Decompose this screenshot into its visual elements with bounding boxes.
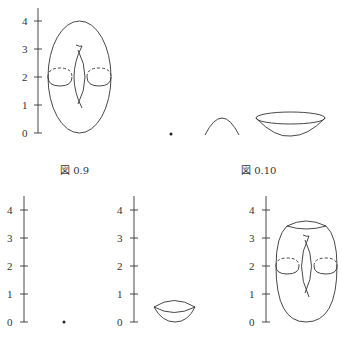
- bottom-panel-point: 4 3 2 1 0: [7, 196, 66, 328]
- tick-label-1: 1: [7, 288, 13, 300]
- fig-0-9: 4 3 2 1 0 図 0.9: [22, 8, 111, 176]
- tick-label-0: 0: [7, 316, 13, 328]
- fig-0-10: 図 0.10: [170, 112, 326, 176]
- tick-label-2: 2: [7, 260, 13, 272]
- tick-label-0: 0: [22, 127, 28, 139]
- figure-caption: 図 0.10: [241, 165, 276, 176]
- tick-label-4: 4: [22, 15, 28, 27]
- height-axis: 4 3 2 1 0: [22, 8, 42, 139]
- bowl: [256, 112, 325, 136]
- tick-label-2: 2: [249, 260, 255, 272]
- tick-label-2: 2: [22, 71, 28, 83]
- tick-label-1: 1: [22, 99, 28, 111]
- tick-label-3: 3: [7, 232, 13, 244]
- torus: [48, 21, 111, 133]
- figure-caption: 図 0.9: [60, 165, 89, 176]
- cut-torus: [276, 221, 337, 322]
- critical-point: [63, 321, 66, 324]
- tick-label-1: 1: [117, 288, 123, 300]
- height-axis: 4 3 2 1 0: [249, 196, 270, 328]
- lens: [154, 301, 195, 323]
- bottom-panel-lens: 4 3 2 1 0: [117, 196, 195, 328]
- height-axis: 4 3 2 1 0: [117, 196, 138, 328]
- tick-label-3: 3: [249, 232, 255, 244]
- figure-canvas: 4 3 2 1 0 図 0.9 図 0.10: [0, 0, 342, 353]
- tick-label-0: 0: [117, 316, 123, 328]
- tick-label-2: 2: [117, 260, 123, 272]
- arch: [205, 118, 239, 135]
- tick-label-3: 3: [117, 232, 123, 244]
- tick-label-4: 4: [249, 204, 255, 216]
- bottom-panel-cut-torus: 4 3 2 1 0: [249, 196, 337, 328]
- tick-label-3: 3: [22, 43, 28, 55]
- tick-label-0: 0: [249, 316, 255, 328]
- tick-label-1: 1: [249, 288, 255, 300]
- tick-label-4: 4: [117, 204, 123, 216]
- tick-label-4: 4: [7, 204, 13, 216]
- critical-point: [170, 133, 173, 136]
- height-axis: 4 3 2 1 0: [7, 196, 28, 328]
